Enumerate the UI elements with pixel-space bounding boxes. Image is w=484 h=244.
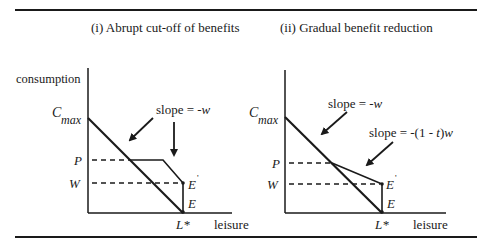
e-prime-point <box>181 181 185 185</box>
prime-mark: ' <box>395 173 397 183</box>
p-label: P <box>73 153 82 168</box>
x-axis-label: leisure <box>413 217 448 232</box>
panel-gradual-reduction: (ii) Gradual benefit reduction C max P W… <box>249 20 453 232</box>
slope-annotation: slope = -w <box>156 102 211 117</box>
cmax-subscript: max <box>61 113 82 127</box>
w-label: W <box>69 176 81 191</box>
e-prime-label: E <box>385 177 394 192</box>
cmax-subscript: max <box>258 113 279 127</box>
y-axis-label: consumption <box>16 72 81 86</box>
panel-abrupt-cutoff: (i) Abrupt cut-off of benefits consumpti… <box>16 20 249 232</box>
e-label: E <box>187 196 196 211</box>
e-point <box>380 210 384 214</box>
w-label: W <box>267 177 279 192</box>
e-prime-label: E <box>187 177 196 192</box>
e-label: E <box>386 196 395 211</box>
x-axis-label: leisure <box>214 217 249 232</box>
lstar-label: L* <box>374 217 389 232</box>
arrow-to-budget-line <box>322 112 347 134</box>
slope-annotation-tw: slope = -(1 - t)w <box>369 125 453 140</box>
panel-title: (i) Abrupt cut-off of benefits <box>91 20 240 35</box>
panel-title: (ii) Gradual benefit reduction <box>280 20 433 35</box>
lstar-label: L* <box>175 217 190 232</box>
p-label: P <box>271 156 280 171</box>
e-point <box>181 210 185 214</box>
arrow-to-budget-line <box>130 118 153 140</box>
prime-mark: ' <box>197 173 199 183</box>
budget-constraint-figure: (i) Abrupt cut-off of benefits consumpti… <box>0 0 484 244</box>
arrow-to-reduction-line <box>367 142 393 165</box>
slope-annotation-w: slope = -w <box>328 96 383 111</box>
e-prime-point <box>380 182 384 186</box>
